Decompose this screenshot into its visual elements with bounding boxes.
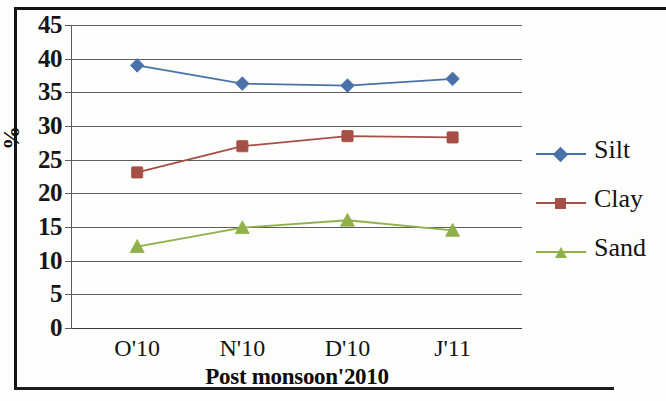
legend-label: Clay — [594, 185, 643, 214]
legend-label: Silt — [594, 136, 630, 165]
legend-item-silt[interactable]: Silt — [536, 134, 666, 183]
legend-swatch — [536, 146, 586, 162]
y-axis-tick — [65, 59, 72, 60]
y-axis-tick-label: 40 — [18, 46, 62, 71]
x-axis-tick-label: N'10 — [187, 336, 297, 361]
gridline — [72, 261, 522, 262]
y-axis-tick-label: 35 — [18, 79, 62, 104]
line-chart: 051015202530354045 % O'10N'10D'10J'11 Po… — [0, 0, 666, 401]
y-axis-title: % — [0, 126, 25, 150]
legend-swatch — [536, 244, 586, 260]
x-axis-tick-label: O'10 — [82, 336, 192, 361]
gridline — [72, 193, 522, 194]
y-axis-tick — [65, 193, 72, 194]
y-axis-tick — [65, 160, 72, 161]
y-axis-tick-label: 10 — [18, 248, 62, 273]
x-axis-title: Post monsoon'2010 — [72, 364, 522, 390]
y-axis-tick — [65, 126, 72, 127]
legend-item-clay[interactable]: Clay — [536, 183, 666, 232]
plot-area — [72, 25, 522, 328]
legend-square-marker-icon — [555, 198, 566, 209]
legend-triangle-marker-icon — [555, 247, 567, 258]
chart-legend: SiltClaySand — [536, 134, 666, 281]
gridline — [72, 160, 522, 161]
gridline — [72, 59, 522, 60]
y-axis-tick-label: 15 — [18, 214, 62, 239]
y-axis-tick — [65, 294, 72, 295]
y-axis-tick — [65, 328, 72, 329]
y-axis-tick-label: 0 — [18, 315, 62, 340]
x-axis-tick-label: D'10 — [292, 336, 402, 361]
gridline — [72, 25, 522, 26]
gridline — [72, 126, 522, 127]
y-axis-tick-label: 20 — [18, 180, 62, 205]
gridline — [72, 227, 522, 228]
y-axis-tick-label: 25 — [18, 147, 62, 172]
legend-item-sand[interactable]: Sand — [536, 232, 666, 281]
y-axis-tick-labels: 051015202530354045 — [12, 0, 62, 401]
legend-diamond-marker-icon — [553, 147, 569, 163]
x-axis-tick-label: J'11 — [398, 336, 508, 361]
gridline — [72, 294, 522, 295]
gridline — [72, 328, 522, 329]
y-axis-tick — [65, 92, 72, 93]
gridline — [72, 92, 522, 93]
legend-swatch — [536, 195, 586, 211]
y-axis-tick-label: 5 — [18, 281, 62, 306]
y-axis-tick — [65, 227, 72, 228]
y-axis-tick-label: 45 — [18, 12, 62, 37]
y-axis-line — [71, 25, 72, 329]
y-axis-tick — [65, 261, 72, 262]
y-axis-tick — [65, 25, 72, 26]
legend-label: Sand — [594, 234, 646, 263]
